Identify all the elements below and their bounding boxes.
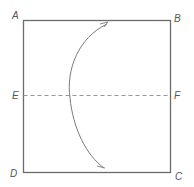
label-d: D xyxy=(10,168,17,179)
label-e: E xyxy=(12,90,19,101)
label-c: C xyxy=(175,171,183,182)
arc-curve xyxy=(69,24,107,168)
label-a: A xyxy=(11,10,19,21)
label-b: B xyxy=(174,13,181,24)
square-abcd xyxy=(24,21,171,173)
diagram-canvas: A B E F D C xyxy=(0,0,194,187)
label-f: F xyxy=(174,90,181,101)
